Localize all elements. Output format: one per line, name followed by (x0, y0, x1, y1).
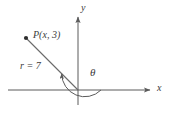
theta-angle-label: θ (90, 67, 95, 78)
trig-diagram-figure: P(x, 3) r = 7 θ y x (0, 0, 169, 113)
point-p-dot (24, 36, 28, 40)
diagram-canvas (0, 0, 169, 113)
radius-label: r = 7 (20, 61, 41, 71)
y-axis-label: y (81, 3, 85, 13)
x-axis-label: x (157, 83, 161, 93)
point-p-label: P(x, 3) (33, 30, 60, 40)
